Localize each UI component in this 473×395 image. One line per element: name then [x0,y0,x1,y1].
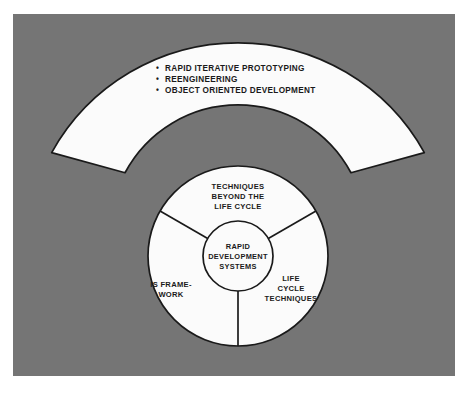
framework-diagram: • RAPID ITERATIVE PROTOTYPING • REENGINE… [0,0,473,395]
lifecycle-line-2: TECHNIQUES [265,294,318,303]
core-line-2: SYSTEMS [219,262,256,271]
isframework-line-0: IS FRAME- [150,280,192,289]
techniques-line-1: BEYOND THE [212,192,265,201]
sector-label-techniques-beyond-the-life-cycle: TECHNIQUES BEYOND THE LIFE CYCLE [212,182,265,211]
bullet-marker-1: • [156,75,159,84]
isframework-line-1: WORK [158,290,183,299]
bullet-label-0: RAPID ITERATIVE PROTOTYPING [165,64,305,73]
lifecycle-line-1: CYCLE [277,284,304,293]
diagram-canvas: • RAPID ITERATIVE PROTOTYPING • REENGINE… [0,0,473,395]
bullet-marker-2: • [156,86,159,95]
core-line-0: RAPID [226,242,251,251]
bullet-label-1: REENGINEERING [165,75,238,84]
bullet-label-2: OBJECT ORIENTED DEVELOPMENT [165,86,316,95]
techniques-line-2: LIFE CYCLE [214,202,261,211]
bullet-marker-0: • [156,64,159,73]
lifecycle-line-0: LIFE [282,274,300,283]
core-line-1: DEVELOPMENT [208,252,268,261]
techniques-line-0: TECHNIQUES [212,182,265,191]
